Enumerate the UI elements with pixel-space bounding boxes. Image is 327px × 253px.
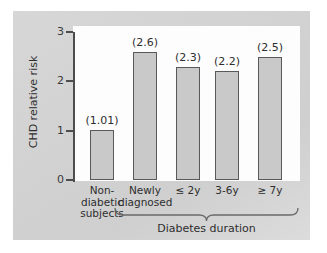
x-axis-category-label-line: ≥ 7y xyxy=(243,185,297,197)
group-caption: Diabetes duration xyxy=(113,223,300,235)
bar-value-label: (2.2) xyxy=(202,56,252,68)
y-axis-tick xyxy=(66,130,73,132)
bar-value-label: (2.5) xyxy=(245,42,295,54)
y-axis-tick-label: 1 xyxy=(50,125,64,136)
x-axis-baseline xyxy=(73,180,75,182)
y-axis-tick-label: 3 xyxy=(50,26,64,37)
bar xyxy=(90,130,114,180)
bar xyxy=(215,71,239,180)
y-axis-line xyxy=(73,32,75,181)
x-axis-category-label: ≥ 7y xyxy=(243,185,297,197)
y-axis-tick xyxy=(66,31,73,33)
y-axis-tick xyxy=(66,179,73,181)
y-axis-title: CHD relative risk xyxy=(28,27,40,177)
bar-value-label: (1.01) xyxy=(77,115,127,127)
y-axis-tick xyxy=(66,80,73,82)
group-brace-icon xyxy=(113,207,300,221)
bar xyxy=(258,57,282,180)
y-axis-tick-label: 2 xyxy=(50,75,64,86)
bar xyxy=(176,67,200,180)
y-axis-tick-label: 0 xyxy=(50,174,64,185)
bar xyxy=(133,52,157,180)
bar-value-label: (2.6) xyxy=(120,37,170,49)
